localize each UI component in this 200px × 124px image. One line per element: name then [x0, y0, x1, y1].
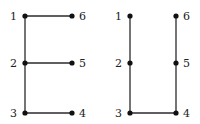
node-3 — [127, 110, 132, 115]
node-label-1: 1 — [10, 10, 17, 23]
node-2 — [22, 60, 27, 65]
node-label-3: 3 — [115, 107, 122, 120]
node-label-1: 1 — [115, 10, 122, 23]
node-label-4: 4 — [183, 107, 190, 120]
node-label-5: 5 — [79, 57, 86, 70]
node-label-6: 6 — [183, 10, 190, 23]
node-1 — [127, 13, 132, 18]
node-label-5: 5 — [183, 57, 190, 70]
node-2 — [127, 60, 132, 65]
node-label-2: 2 — [10, 57, 17, 70]
node-1 — [22, 13, 27, 18]
node-label-2: 2 — [115, 57, 122, 70]
node-label-6: 6 — [79, 10, 86, 23]
node-label-4: 4 — [79, 107, 86, 120]
node-3 — [22, 110, 27, 115]
node-4 — [69, 110, 74, 115]
graph-diagram: 123456123456 — [0, 0, 200, 124]
node-4 — [173, 110, 178, 115]
left-graph: 123456 — [10, 10, 86, 120]
node-6 — [173, 13, 178, 18]
node-5 — [69, 60, 74, 65]
node-6 — [69, 13, 74, 18]
right-graph: 123456 — [115, 10, 190, 120]
node-label-3: 3 — [10, 107, 17, 120]
node-5 — [173, 60, 178, 65]
